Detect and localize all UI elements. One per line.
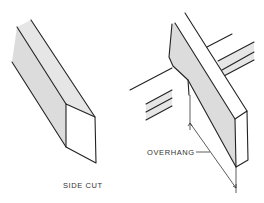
overhang-label: OVERHANG xyxy=(147,149,195,157)
joinery-diagram xyxy=(0,0,264,203)
overhang-assembly xyxy=(130,13,254,193)
side-cut-board xyxy=(12,20,96,163)
side-cut-label: SIDE CUT xyxy=(63,182,103,190)
